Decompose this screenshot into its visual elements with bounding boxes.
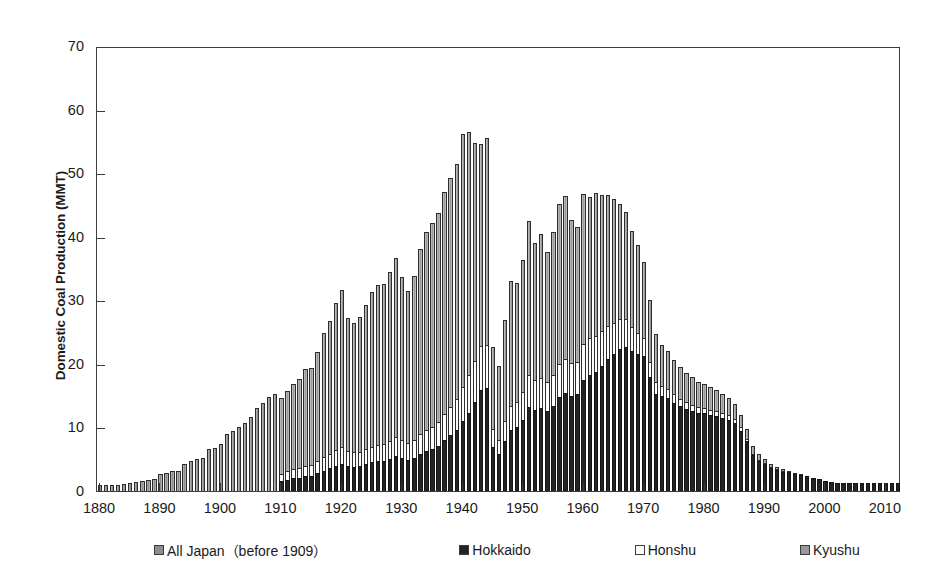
bar-1923: [358, 317, 362, 491]
segment-hokkaido-1999: [817, 479, 821, 491]
bar-1902: [231, 431, 235, 491]
y-tick-label-50: 50: [44, 165, 84, 181]
segment-hokkaido-1946: [497, 454, 501, 491]
segment-all-japan-1887: [140, 481, 144, 491]
bar-1893: [176, 471, 180, 491]
legend-swatch-kyushu-icon: [800, 545, 810, 555]
segment-hokkaido-1984: [727, 420, 731, 491]
segment-kyushu-1959: [575, 227, 579, 362]
bar-1905: [249, 417, 253, 491]
segment-hokkaido-1957: [563, 393, 567, 491]
segment-honshu-1926: [376, 445, 380, 462]
bar-1926: [376, 285, 380, 491]
segment-honshu-1948: [509, 406, 513, 430]
legend-item-kyushu[interactable]: Kyushu: [800, 542, 860, 558]
segment-hokkaido-1972: [654, 394, 658, 491]
legend-item-hokkaido[interactable]: Hokkaido: [459, 542, 530, 558]
x-tick-1970: [643, 483, 644, 492]
segment-honshu-1925: [370, 447, 374, 463]
segment-kyushu-1960: [581, 194, 585, 344]
y-tick-20: [96, 365, 105, 366]
bar-1908: [267, 397, 271, 491]
segment-kyushu-1937: [442, 192, 446, 414]
segment-kyushu-1923: [358, 317, 362, 451]
segment-honshu-1954: [545, 382, 549, 411]
segment-honshu-1956: [557, 364, 561, 397]
segment-honshu-1910: [279, 474, 283, 482]
x-tick-1980: [704, 483, 705, 492]
segment-hokkaido-1995: [793, 474, 797, 491]
segment-all-japan-1906: [255, 408, 259, 491]
bar-1972: [654, 334, 658, 491]
segment-hokkaido-1985: [733, 423, 737, 491]
segment-hokkaido-1919: [334, 466, 338, 491]
segment-kyushu-1949: [515, 283, 519, 403]
segment-hokkaido-1992: [775, 470, 779, 491]
segment-hokkaido-1988: [751, 455, 755, 491]
segment-hokkaido-2007: [866, 483, 870, 491]
segment-hokkaido-1955: [551, 406, 555, 491]
segment-kyushu-1931: [406, 291, 410, 443]
segment-honshu-1967: [624, 319, 628, 346]
segment-all-japan-1882: [110, 485, 114, 491]
bar-1942: [473, 143, 477, 491]
bar-1897: [201, 458, 205, 491]
segment-all-japan-1886: [134, 482, 138, 491]
bar-1883: [116, 485, 120, 491]
y-tick-60: [96, 111, 105, 112]
segment-honshu-1972: [654, 382, 658, 393]
x-tick-1890: [159, 483, 160, 492]
bar-1967: [624, 212, 628, 491]
bar-1937: [442, 192, 446, 491]
bar-1981: [708, 387, 712, 491]
segment-kyushu-1934: [424, 232, 428, 430]
bar-1946: [497, 366, 501, 491]
y-tick-50: [96, 174, 105, 175]
segment-hokkaido-2008: [872, 483, 876, 491]
segment-honshu-1922: [352, 452, 356, 467]
bar-1987: [745, 429, 749, 491]
bar-1938: [448, 178, 452, 491]
segment-honshu-1921: [346, 451, 350, 466]
bar-1909: [273, 394, 277, 491]
bar-1910: [279, 398, 283, 491]
chart-legend: All Japan（before 1909）HokkaidoHonshuKyus…: [96, 540, 900, 560]
segment-honshu-1918: [328, 454, 332, 469]
x-tick-label-2010: 2010: [855, 500, 915, 516]
bar-1978: [690, 377, 694, 491]
segment-honshu-1933: [418, 434, 422, 454]
segment-kyushu-1968: [630, 231, 634, 327]
segment-hokkaido-1973: [660, 396, 664, 491]
bar-1969: [636, 245, 640, 491]
x-tick-label-1940: 1940: [432, 500, 492, 516]
bar-1914: [303, 369, 307, 491]
segment-kyushu-1979: [696, 382, 700, 407]
segment-honshu-1958: [569, 363, 573, 395]
segment-kyushu-1941: [467, 132, 471, 375]
segment-hokkaido-1922: [352, 467, 356, 491]
bar-1979: [696, 382, 700, 491]
segment-hokkaido-1916: [315, 473, 319, 491]
segment-kyushu-1913: [297, 379, 301, 468]
segment-all-japan-1888: [146, 480, 150, 491]
segment-kyushu-1926: [376, 285, 380, 445]
legend-item-honshu[interactable]: Honshu: [635, 542, 696, 558]
bar-1943: [479, 144, 483, 491]
segment-hokkaido-1926: [376, 461, 380, 491]
bar-1906: [255, 408, 259, 491]
segment-kyushu-1942: [473, 143, 477, 362]
segment-hokkaido-1983: [720, 418, 724, 491]
x-tick-label-1880: 1880: [69, 500, 129, 516]
segment-hokkaido-2011: [890, 483, 894, 491]
segment-all-japan-1891: [164, 473, 168, 491]
segment-hokkaido-1949: [515, 427, 519, 491]
segment-hokkaido-1938: [448, 435, 452, 491]
x-tick-label-1890: 1890: [129, 500, 189, 516]
bar-1907: [261, 403, 265, 491]
segment-all-japan-1881: [104, 485, 108, 491]
legend-swatch-all-japan-icon: [154, 545, 164, 555]
bar-1924: [364, 305, 368, 491]
legend-item-all-japan[interactable]: All Japan（before 1909）: [154, 540, 327, 560]
bar-1916: [315, 352, 319, 491]
legend-label-kyushu: Kyushu: [813, 542, 860, 558]
